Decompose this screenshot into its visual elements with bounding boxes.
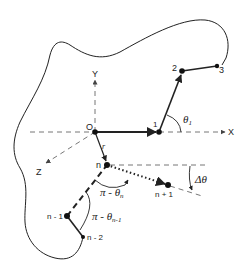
label-x-axis: X xyxy=(228,127,234,137)
label-node-n-1: n - 1 xyxy=(47,212,64,221)
arc-theta1 xyxy=(167,115,181,132)
chain-nodes xyxy=(64,64,219,239)
label-y-axis: Y xyxy=(92,69,98,79)
z-axis xyxy=(46,132,95,163)
label-node-2: 2 xyxy=(172,63,177,73)
node-1 xyxy=(156,129,162,135)
label-origin: O xyxy=(86,122,93,132)
node-2 xyxy=(179,68,185,74)
node-n+1 xyxy=(165,182,171,188)
label-node-n-2: n - 2 xyxy=(87,233,104,242)
node-n-1 xyxy=(64,213,70,219)
label-node-3: 3 xyxy=(219,65,224,75)
arc-delta-theta xyxy=(189,166,192,190)
label-node-n+1: n + 1 xyxy=(155,190,174,199)
bond-n-n+1 xyxy=(107,165,165,184)
label-vector-r: r xyxy=(102,142,106,151)
node-n-2 xyxy=(81,235,85,239)
label-node-n: n xyxy=(96,160,101,170)
label-pi-theta-n: π - θn xyxy=(100,186,124,200)
label-theta1: θ1 xyxy=(183,113,192,127)
chain-bonds xyxy=(67,66,217,237)
chain-diagram: X Y Z O 1 2 3 n - 2 n - 1 n n + 1 r θ1 π… xyxy=(0,0,244,266)
node-n xyxy=(104,162,110,168)
node-origin xyxy=(92,129,98,135)
label-z-axis: Z xyxy=(36,167,42,177)
bond-n-2-n-1 xyxy=(67,216,83,237)
label-node-1: 1 xyxy=(153,120,158,129)
label-delta-theta: Δθ xyxy=(194,173,207,185)
label-pi-theta-n-1: π - θn-1 xyxy=(92,210,121,224)
bond-2-3 xyxy=(182,66,217,71)
extension-line xyxy=(170,186,202,196)
